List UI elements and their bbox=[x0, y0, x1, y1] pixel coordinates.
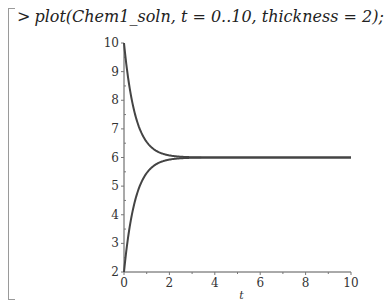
y-tick-label: 10 bbox=[104, 36, 119, 50]
y-tick-label: 8 bbox=[111, 93, 119, 107]
curve-decaying bbox=[124, 43, 351, 158]
y-tick-label: 9 bbox=[111, 65, 119, 79]
y-tick-label: 2 bbox=[111, 265, 119, 279]
y-tick-label: 5 bbox=[111, 179, 119, 193]
x-tick-label: 6 bbox=[256, 276, 264, 290]
y-tick-label: 3 bbox=[111, 236, 119, 250]
y-tick-label: 7 bbox=[111, 122, 119, 136]
x-tick-label: 4 bbox=[211, 276, 219, 290]
y-tick-label: 6 bbox=[111, 151, 119, 165]
x-tick-label: 10 bbox=[343, 276, 358, 290]
x-tick-label: 0 bbox=[120, 276, 128, 290]
x-tick-label: 2 bbox=[166, 276, 174, 290]
y-tick-label: 4 bbox=[111, 208, 119, 222]
curve-rising bbox=[124, 158, 351, 273]
x-tick-label: 8 bbox=[302, 276, 310, 290]
x-axis-label: t bbox=[239, 289, 244, 302]
